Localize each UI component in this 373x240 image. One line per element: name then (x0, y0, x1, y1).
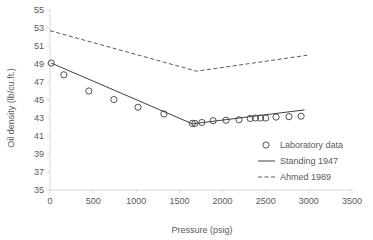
y-axis-tick-label: 49 (34, 59, 44, 69)
chart-canvas: 3537394143454749515355 05001000150020002… (0, 0, 373, 240)
y-axis-tick-label: 37 (34, 167, 44, 177)
x-axis-tick-label: 2000 (213, 196, 233, 206)
x-axis-tick-label: 3000 (299, 196, 319, 206)
x-axis-tick-label: 1500 (169, 196, 189, 206)
legend-item-label: Standing 1947 (280, 156, 338, 166)
x-axis-tick-label: 2500 (256, 196, 276, 206)
y-axis-tick-label: 35 (34, 185, 44, 195)
oil-density-vs-pressure-chart: 3537394143454749515355 05001000150020002… (0, 0, 373, 240)
x-axis-tick-label: 500 (86, 196, 101, 206)
legend-item-label: Laboratory data (280, 140, 343, 150)
y-axis-tick-label: 41 (34, 131, 44, 141)
y-axis-tick-label: 43 (34, 113, 44, 123)
legend-item-label: Ahmed 1989 (280, 172, 331, 182)
y-axis-tick-label: 47 (34, 77, 44, 87)
y-axis-tick-label: 39 (34, 149, 44, 159)
x-axis-tick-label: 3500 (342, 196, 362, 206)
y-axis-tick-label: 55 (34, 5, 44, 15)
x-axis-title: Pressure (psig) (171, 225, 232, 235)
x-axis-tick-label: 0 (47, 196, 52, 206)
y-axis-title: Oil density (lb/cu.ft.) (6, 68, 16, 148)
y-axis-tick-label: 53 (34, 23, 44, 33)
y-axis-tick-label: 51 (34, 41, 44, 51)
x-axis-tick-label: 1000 (126, 196, 146, 206)
y-axis-tick-label: 45 (34, 95, 44, 105)
